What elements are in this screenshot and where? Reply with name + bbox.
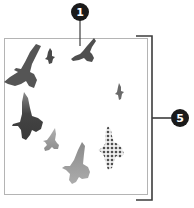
group-bracket [136, 36, 171, 200]
bird-icon [43, 128, 59, 151]
bird-icon [115, 83, 124, 100]
callout-1: 1 [71, 3, 89, 46]
bird-icon [98, 126, 124, 170]
callout-5-label: 5 [176, 112, 184, 125]
bird-icon [62, 142, 90, 184]
bird-icon [12, 92, 43, 140]
callout-1-label: 1 [76, 6, 84, 19]
callout-5: 5 [171, 109, 189, 127]
bird-flock-diagram: 1 5 [0, 0, 194, 208]
bird-icon [71, 38, 96, 62]
bird-icon [45, 48, 55, 64]
bird-icon [4, 44, 41, 88]
